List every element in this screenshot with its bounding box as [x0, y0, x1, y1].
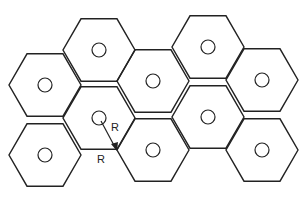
base-station-icon	[92, 111, 106, 125]
hex-cell	[117, 50, 189, 112]
hex-cell	[9, 124, 81, 186]
base-station-icon	[201, 40, 215, 54]
radius-arrow-label: R	[111, 121, 119, 133]
cells-group	[9, 16, 298, 186]
radius-edge-label: R	[97, 153, 105, 165]
base-station-icon	[255, 73, 269, 87]
base-station-icon	[201, 110, 215, 124]
base-station-icon	[146, 143, 160, 157]
radius-annotation: R R	[97, 121, 119, 165]
base-station-icon	[255, 143, 269, 157]
hexagonal-cell-diagram: R R	[0, 0, 306, 197]
base-station-icon	[38, 78, 52, 92]
base-station-icon	[92, 43, 106, 57]
base-station-icon	[38, 148, 52, 162]
base-station-icon	[146, 74, 160, 88]
